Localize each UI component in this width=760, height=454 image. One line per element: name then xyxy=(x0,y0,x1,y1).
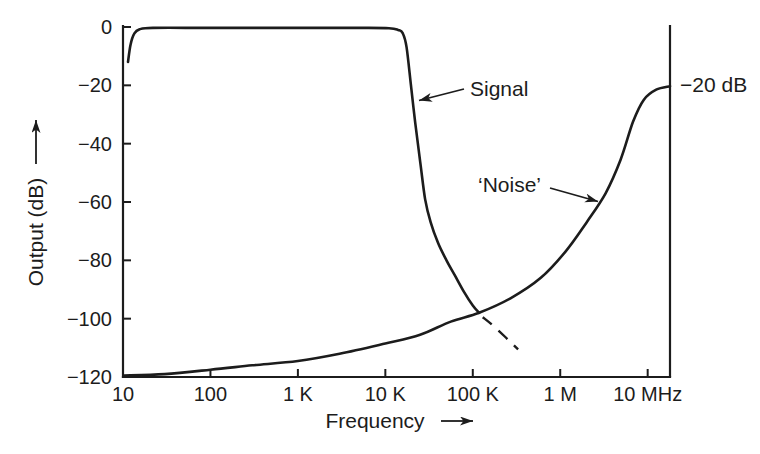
x-tick-label: 1 K xyxy=(283,383,314,405)
figure-page: 101001 K10 K100 K1 M10 MHz0−20−40−60−80−… xyxy=(0,0,760,454)
y-tick-label: −80 xyxy=(78,249,112,271)
right-value-label: −20 dB xyxy=(680,73,747,96)
x-tick-label: 10 MHz xyxy=(613,383,682,405)
noise-curve xyxy=(124,86,670,375)
signal-curve-dashed xyxy=(483,317,518,349)
y-tick-label: −20 xyxy=(78,74,112,96)
signal-label: Signal xyxy=(470,77,528,100)
y-axis-title: Output (dB) xyxy=(24,178,47,287)
axis-ticks xyxy=(123,27,648,377)
x-axis-title: Frequency xyxy=(325,409,425,432)
y-tick-label: −100 xyxy=(67,308,112,330)
plot-frame xyxy=(122,25,671,378)
noise-label: ‘Noise’ xyxy=(478,173,541,196)
x-tick-label: 100 K xyxy=(447,383,500,405)
y-axis-title-group: Output (dB) xyxy=(24,120,47,286)
y-tick-label: −120 xyxy=(67,366,112,388)
signal-pointer-arrow xyxy=(419,89,464,101)
y-tick-label: 0 xyxy=(101,16,112,38)
x-tick-label: 10 K xyxy=(365,383,407,405)
x-tick-label: 1 M xyxy=(544,383,577,405)
x-axis-title-group: Frequency xyxy=(325,409,473,432)
y-tick-label: −60 xyxy=(78,191,112,213)
noise-pointer-arrow xyxy=(550,188,598,202)
y-tick-label: −40 xyxy=(78,133,112,155)
x-tick-label: 100 xyxy=(194,383,227,405)
frequency-response-chart: 101001 K10 K100 K1 M10 MHz0−20−40−60−80−… xyxy=(0,0,760,454)
signal-curve xyxy=(128,28,479,313)
x-tick-label: 10 xyxy=(112,383,134,405)
